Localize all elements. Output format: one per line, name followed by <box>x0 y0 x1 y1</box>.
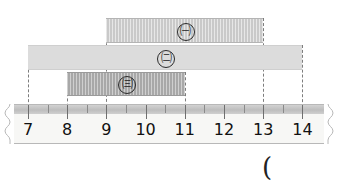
figure-canvas: ㈠ ㈡ ㈢ 7891011121314 ( <box>0 0 338 182</box>
ruler-number-14: 14 <box>292 120 312 139</box>
ruler-number-11: 11 <box>175 120 195 139</box>
ruler-tick-major <box>146 105 147 119</box>
interval-label-c: ㈢ <box>118 76 136 94</box>
ruler-tick-major <box>263 105 264 119</box>
ruler-tick-minor <box>283 105 284 113</box>
ruler-tick-major <box>185 105 186 119</box>
ruler-tick-major <box>67 105 68 119</box>
interval-label-a: ㈠ <box>177 23 195 41</box>
ruler-tick-minor <box>204 105 205 113</box>
ruler-number-9: 9 <box>101 120 111 139</box>
ruler: 7891011121314 <box>14 104 324 144</box>
ruler-tick-minor <box>48 105 49 113</box>
ruler-tick-minor <box>87 105 88 113</box>
ruler-tick-major <box>28 105 29 119</box>
ruler-torn-edge-right-icon <box>324 104 335 144</box>
ruler-number-7: 7 <box>23 120 33 139</box>
ruler-number-12: 12 <box>214 120 234 139</box>
ruler-scale-band <box>14 105 324 114</box>
ruler-number-10: 10 <box>135 120 155 139</box>
ruler-tick-major <box>302 105 303 119</box>
ruler-torn-edge-left-icon <box>3 104 14 144</box>
ruler-tick-minor <box>244 105 245 113</box>
ruler-tick-minor <box>126 105 127 113</box>
interval-label-b: ㈡ <box>157 50 175 68</box>
ruler-tick-minor <box>165 105 166 113</box>
paren-glyph: ( <box>262 152 272 182</box>
guide-line-14 <box>302 45 303 112</box>
ruler-tick-major <box>106 105 107 119</box>
ruler-tick-major <box>224 105 225 119</box>
ruler-number-8: 8 <box>62 120 72 139</box>
ruler-number-13: 13 <box>253 120 273 139</box>
